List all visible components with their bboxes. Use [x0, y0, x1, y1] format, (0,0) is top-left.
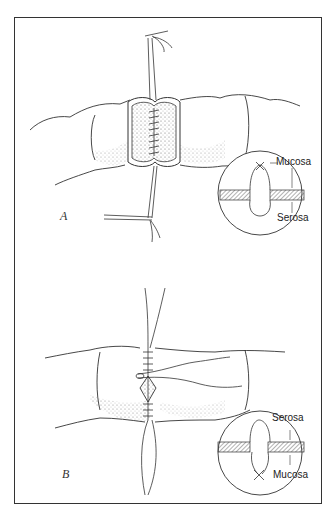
bowel-shading-b [90, 395, 150, 421]
illustration-canvas [0, 0, 331, 518]
inset-diagram-b [218, 411, 304, 495]
suture-technique-figure: A Mucosa Serosa B Serosa Mucosa [0, 0, 331, 518]
inset-a-label-mucosa: Mucosa [276, 156, 311, 167]
bowel-shading-b2 [160, 400, 225, 418]
stay-suture-bottom-a [104, 166, 160, 242]
panel-label-b: B [62, 467, 69, 482]
panel-b-drawing [45, 288, 304, 495]
panel-label-a: A [60, 209, 67, 224]
bowel-shading-a2 [180, 140, 225, 164]
bowel-shading-a [95, 140, 128, 165]
inset-b-label-mucosa: Mucosa [273, 469, 308, 480]
inset-a-label-serosa: Serosa [277, 212, 309, 223]
panel-a-drawing [30, 31, 304, 242]
inset-b-label-serosa: Serosa [272, 412, 304, 423]
stay-suture-top-a [145, 31, 172, 100]
closing-gap-b [140, 376, 156, 402]
